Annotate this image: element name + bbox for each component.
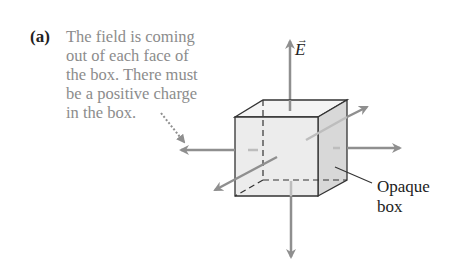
vector-arrow-icon: → (297, 33, 308, 45)
box-label: Opaque box (377, 177, 430, 217)
caption-pointer (161, 113, 184, 142)
field-arrow-back (347, 107, 367, 117)
box-label-line: Opaque (377, 177, 430, 197)
box-diagram (0, 0, 472, 264)
box-side-face (318, 100, 347, 196)
box-label-line: box (377, 197, 430, 217)
